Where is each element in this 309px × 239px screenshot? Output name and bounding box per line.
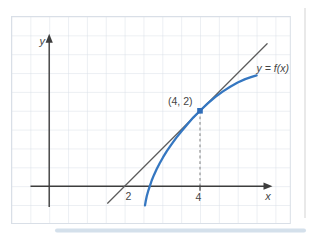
- x-tick-label-4: 4: [196, 191, 202, 203]
- curve-label: y = f(x): [256, 62, 289, 74]
- graph-figure: y x 2 4 (4, 2) y = f(x): [0, 0, 309, 239]
- page-strip: [55, 229, 306, 233]
- figure-page: y x 2 4 (4, 2) y = f(x): [0, 0, 309, 239]
- point-marker: [197, 108, 203, 114]
- point-label: (4, 2): [168, 95, 193, 107]
- x-tick-label-2: 2: [126, 190, 132, 202]
- x-axis-label: x: [264, 190, 271, 202]
- grid: [12, 17, 291, 224]
